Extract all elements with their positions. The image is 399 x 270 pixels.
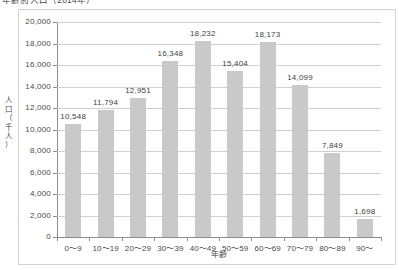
y-tick-label: 4,000	[30, 190, 51, 198]
y-tick-mark	[53, 194, 57, 195]
bar-value-label: 11,794	[80, 98, 132, 107]
bar-value-label: 18,232	[177, 29, 229, 38]
y-tick-label: 2,000	[30, 212, 51, 220]
x-tick-mark	[381, 237, 382, 241]
y-tick-label: 6,000	[30, 169, 51, 177]
x-tick-mark	[89, 237, 90, 241]
x-tick-mark	[122, 237, 123, 241]
bar-value-label: 7,849	[306, 141, 358, 150]
y-tick-label: 20,000	[25, 18, 51, 26]
bar[interactable]	[357, 219, 373, 237]
bar-value-label: 16,348	[144, 49, 196, 58]
y-tick-label: 14,000	[25, 83, 51, 91]
bar[interactable]	[292, 85, 308, 237]
y-tick-mark	[53, 108, 57, 109]
bar[interactable]	[195, 41, 211, 237]
y-tick-mark	[53, 130, 57, 131]
bar-value-label: 10,548	[47, 112, 99, 121]
y-tick-label: 16,000	[25, 61, 51, 69]
bar[interactable]	[260, 42, 276, 237]
y-tick-mark	[53, 87, 57, 88]
plot-area: 02,0004,0006,0008,00010,00012,00014,0001…	[57, 22, 381, 237]
bar[interactable]	[162, 61, 178, 237]
bar-value-label: 1,698	[339, 207, 391, 216]
y-tick-label: 8,000	[30, 147, 51, 155]
gridline	[57, 44, 381, 45]
x-tick-mark	[219, 237, 220, 241]
x-tick-mark	[187, 237, 188, 241]
bar-value-label: 14,099	[274, 73, 326, 82]
bar-value-label: 18,173	[242, 30, 294, 39]
x-tick-mark	[57, 237, 58, 241]
bar-value-label: 12,951	[112, 86, 164, 95]
y-tick-mark	[53, 44, 57, 45]
y-tick-mark	[53, 173, 57, 174]
bar[interactable]	[227, 71, 243, 237]
bar-value-label: 15,404	[209, 59, 261, 68]
gridline	[57, 87, 381, 88]
x-tick-mark	[251, 237, 252, 241]
bar[interactable]	[65, 124, 81, 237]
x-tick-mark	[349, 237, 350, 241]
y-tick-mark	[53, 216, 57, 217]
y-tick-label: 0	[46, 233, 51, 241]
x-axis-title: 年齢	[57, 248, 381, 259]
y-tick-label: 18,000	[25, 40, 51, 48]
gridline	[57, 108, 381, 109]
y-tick-mark	[53, 65, 57, 66]
y-tick-mark	[53, 151, 57, 152]
bar[interactable]	[130, 98, 146, 237]
y-tick-mark	[53, 22, 57, 23]
x-tick-mark	[316, 237, 317, 241]
x-tick-mark	[154, 237, 155, 241]
x-tick-mark	[284, 237, 285, 241]
bar[interactable]	[98, 110, 114, 237]
y-tick-label: 10,000	[25, 126, 51, 134]
bar[interactable]	[324, 153, 340, 237]
plot-wrapper: 02,0004,0006,0008,00010,00012,00014,0001…	[0, 0, 399, 270]
gridline	[57, 22, 381, 23]
